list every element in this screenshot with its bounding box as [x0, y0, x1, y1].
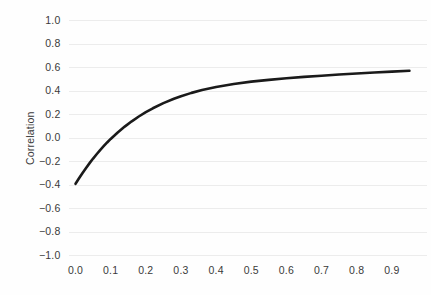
- y-tick-label: 0.6: [31, 61, 61, 73]
- x-tick-label: 0.6: [271, 264, 301, 276]
- data-series: [76, 71, 410, 184]
- gridlines: [69, 21, 428, 256]
- y-tick-label: 0.4: [31, 84, 61, 96]
- plot-area: [0, 0, 431, 295]
- x-tick-label: 0.9: [377, 264, 407, 276]
- x-tick-label: 0.2: [131, 264, 161, 276]
- x-tick-label: 0.1: [96, 264, 126, 276]
- y-tick-label: 0.2: [31, 108, 61, 120]
- x-tick-label: 0.0: [61, 264, 91, 276]
- y-tick-label: 0.0: [31, 131, 61, 143]
- x-tick-label: 0.5: [236, 264, 266, 276]
- y-tick-label: −0.4: [31, 178, 61, 190]
- y-tick-label: 1.0: [31, 14, 61, 26]
- x-tick-label: 0.3: [166, 264, 196, 276]
- x-tick-label: 0.8: [342, 264, 372, 276]
- x-tick-label: 0.4: [201, 264, 231, 276]
- y-tick-label: −1.0: [31, 249, 61, 261]
- correlation-chart: Correlation 1.00.80.60.40.20.0−0.2−0.4−0…: [0, 0, 431, 295]
- y-tick-label: −0.2: [31, 155, 61, 167]
- x-tick-label: 0.7: [307, 264, 337, 276]
- y-tick-label: 0.8: [31, 37, 61, 49]
- y-tick-label: −0.6: [31, 202, 61, 214]
- y-tick-label: −0.8: [31, 225, 61, 237]
